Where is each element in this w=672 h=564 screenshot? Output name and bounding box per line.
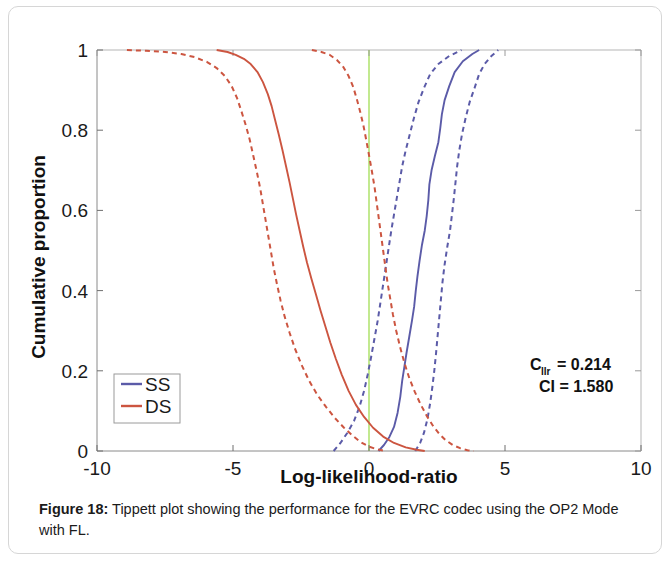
y-tick-label: 0.4 <box>62 281 89 302</box>
chart-legend: SSDS <box>114 374 180 423</box>
caption-body: Tippett plot showing the performance for… <box>39 501 619 538</box>
cllr-value: = 0.214 <box>557 356 611 373</box>
metrics-annotation: C llr = 0.214 CI = 1.580 <box>530 356 613 395</box>
y-tick-label: 0 <box>77 441 88 462</box>
y-tick-label: 0.6 <box>62 200 88 221</box>
ci-value: CI = 1.580 <box>539 378 613 395</box>
y-tick-label: 0.2 <box>62 361 88 382</box>
x-tick-label: 5 <box>500 458 511 479</box>
curve-ds-upper-ci <box>312 50 474 451</box>
x-axis-title: Log-likelihood-ratio <box>280 466 457 487</box>
y-tick-label: 1 <box>77 40 88 61</box>
curve-ds-center <box>217 50 425 451</box>
curve-ss-upper-ci <box>415 50 498 451</box>
chart-plot-region: -10-50510 00.20.40.60.81 Log-likelihood-… <box>9 7 672 487</box>
caption-label: Figure 18: <box>39 501 108 517</box>
y-axis-title: Cumulative proportion <box>28 155 49 359</box>
tippett-plot-svg: -10-50510 00.20.40.60.81 Log-likelihood-… <box>9 7 672 487</box>
data-curves <box>127 50 498 451</box>
legend-label-ss: SS <box>145 374 170 395</box>
x-tick-label: 10 <box>630 458 651 479</box>
y-tick-label: 0.8 <box>62 120 88 141</box>
curve-ss-center <box>379 50 480 451</box>
figure-card: -10-50510 00.20.40.60.81 Log-likelihood-… <box>8 6 662 554</box>
figure-caption: Figure 18: Tippett plot showing the perf… <box>39 499 643 540</box>
legend-label-ds: DS <box>145 396 171 417</box>
x-tick-label: -5 <box>225 458 242 479</box>
cllr-subscript: llr <box>541 366 551 377</box>
